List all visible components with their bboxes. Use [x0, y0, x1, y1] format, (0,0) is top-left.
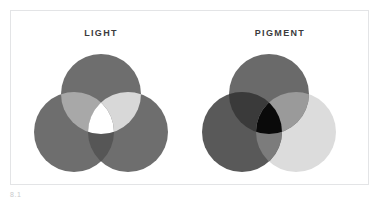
venn-diagram-light: [21, 49, 181, 177]
figure-caption: 8.1: [10, 191, 22, 198]
venn-diagram-pigment: [189, 49, 349, 177]
figure-plate: LIGHT PIGMENT: [10, 10, 369, 185]
panel-title-light: LIGHT: [11, 28, 191, 38]
figure-root: LIGHT PIGMENT: [0, 0, 381, 203]
panel-title-pigment: PIGMENT: [190, 28, 370, 38]
